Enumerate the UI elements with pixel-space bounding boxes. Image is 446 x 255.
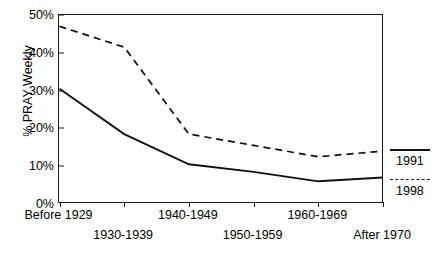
chart-legend: 1991 1998: [390, 136, 446, 196]
x-axis-label: 1960-1969: [287, 208, 347, 222]
series-line-1998: [60, 26, 384, 156]
x-axis-label: 1940-1949: [158, 208, 218, 222]
x-axis-label: Before 1929: [24, 208, 92, 222]
line-chart: % PRAY Weekly 0%10%20%30%40%50% Before 1…: [0, 0, 446, 255]
series-line-1991: [60, 89, 384, 182]
y-tick-label: 40%: [29, 46, 59, 60]
x-tick-mark: [383, 202, 384, 207]
y-tick-label: 50%: [29, 8, 59, 22]
legend-item: 1991: [390, 136, 446, 166]
y-tick-label: 20%: [29, 121, 59, 135]
y-tick-mark: [59, 52, 64, 53]
y-tick-mark: [59, 128, 64, 129]
x-axis-label: 1930-1939: [93, 228, 153, 242]
y-tick-mark: [59, 15, 64, 16]
x-tick-mark: [60, 202, 61, 207]
y-tick-label: 30%: [29, 84, 59, 98]
legend-key-dashed-icon: [390, 179, 430, 180]
plot-svg: [59, 15, 384, 204]
legend-label: 1998: [396, 184, 424, 198]
x-tick-mark: [189, 202, 190, 207]
x-tick-mark: [124, 202, 125, 207]
legend-item: 1998: [390, 166, 446, 196]
y-tick-mark: [59, 90, 64, 91]
x-axis-label: 1950-1959: [223, 228, 283, 242]
plot-area: 0%10%20%30%40%50%: [58, 14, 383, 203]
legend-key-solid-icon: [390, 149, 430, 151]
x-tick-mark: [254, 202, 255, 207]
y-tick-label: 10%: [29, 159, 59, 173]
x-axis-label: After 1970: [353, 228, 411, 242]
x-tick-mark: [318, 202, 319, 207]
y-tick-mark: [59, 166, 64, 167]
